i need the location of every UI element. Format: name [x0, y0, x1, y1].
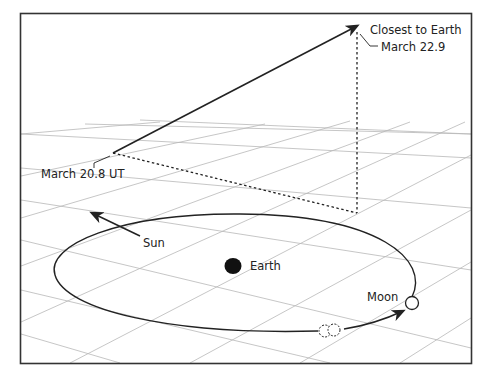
- closest-label: Closest to Earth: [370, 23, 462, 37]
- earth-label: Earth: [250, 259, 281, 273]
- perspective-grid: [21, 120, 471, 363]
- trajectory-arrow: [113, 26, 357, 153]
- closest-date-label: March 22.9: [381, 40, 445, 54]
- lunar-orbit-diagram: Closest to Earth March 22.9 March 20.8 U…: [0, 0, 484, 376]
- earth-icon: [225, 258, 242, 274]
- start-date-label: March 20.8 UT: [41, 167, 125, 181]
- diagram-frame: [21, 14, 472, 364]
- moon-label: Moon: [367, 290, 398, 304]
- sun-label: Sun: [143, 236, 165, 250]
- moon-icon: [406, 297, 419, 310]
- projection-line-ground: [113, 153, 357, 213]
- moon-previous-position-icon: [328, 324, 340, 336]
